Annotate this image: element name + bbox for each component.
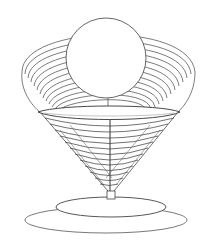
cone-wires — [40, 112, 178, 191]
stem — [107, 191, 115, 199]
base-upper-ellipse — [56, 197, 166, 217]
sphere — [66, 18, 146, 98]
bowl-rim — [38, 106, 180, 120]
lamp-drawing — [0, 0, 210, 246]
illustration-canvas: wire cone lamp with sphere on elliptical… — [0, 0, 210, 246]
